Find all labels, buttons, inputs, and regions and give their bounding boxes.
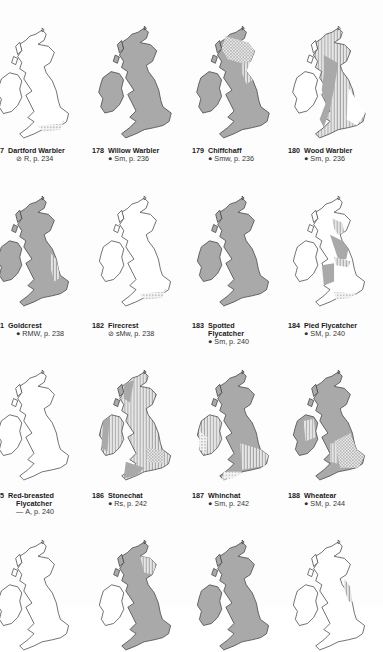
species-label: 182 Firecrest ⊘sMw, p. 238 (92, 322, 154, 338)
distribution-map-willow-warbler (88, 26, 184, 140)
distribution-map-wheatear (282, 370, 378, 482)
status-symbol-icon: ● (208, 338, 212, 346)
distribution-map-chiffchaff (186, 26, 282, 140)
status-symbol-icon: ⊘ (108, 330, 114, 338)
status-symbol-icon: ● (16, 330, 20, 338)
species-label: 184 Pied Flycatcher ●SM, p. 240 (288, 322, 357, 338)
status-symbol-icon: ● (208, 500, 212, 508)
species-status: ⊘R, p. 234 (0, 155, 65, 163)
status-symbol-icon: ● (208, 155, 212, 163)
distribution-map-row4-3 (186, 540, 282, 652)
distribution-map-whinchat (186, 370, 282, 482)
status-symbol-icon: ● (304, 500, 308, 508)
status-symbol-icon: ● (108, 500, 112, 508)
species-label: 7 Dartford Warbler ⊘R, p. 234 (0, 147, 65, 163)
distribution-map-row4-1 (0, 540, 82, 652)
species-label: 1 Goldcrest ●RMW, p. 238 (0, 322, 64, 338)
distribution-map-spotted-flycatcher (186, 196, 282, 308)
distribution-map-row4-2 (88, 540, 184, 652)
species-label: 178 Willow Warbler ●Sm, p. 236 (92, 147, 159, 163)
species-number: 7 (0, 147, 4, 155)
species-label: 188 Wheatear ●SM, p. 244 (288, 492, 345, 508)
distribution-map-red-breasted-flycatcher (0, 370, 82, 482)
distribution-map-stonechat (88, 370, 184, 482)
status-symbol-icon: ● (304, 155, 308, 163)
distribution-map-goldcrest (0, 196, 82, 308)
species-label: 5 Red-breasted Flycatcher —A, p. 240 (0, 492, 54, 517)
species-label: 180 Wood Warbler ●Sm, p. 236 (288, 147, 352, 163)
species-label: 183 Spotted Flycatcher ●Sm, p. 240 (192, 322, 249, 347)
species-label: 187 Whinchat ●Sm, p. 242 (192, 492, 249, 508)
species-label: 179 Chiffchaff ●Smw, p. 236 (192, 147, 254, 163)
status-symbol-icon: ⊘ (16, 155, 22, 163)
distribution-map-dartford-warbler (0, 28, 82, 140)
distribution-map-wood-warbler (282, 26, 378, 140)
status-symbol-icon: ● (304, 330, 308, 338)
distribution-map-firecrest (88, 196, 184, 308)
distribution-map-pied-flycatcher (282, 196, 378, 308)
species-label: 186 Stonechat ●Rs, p. 242 (92, 492, 147, 508)
status-symbol-icon: ● (108, 155, 112, 163)
distribution-map-row4-4 (282, 540, 378, 652)
status-symbol-icon: — (16, 508, 23, 516)
